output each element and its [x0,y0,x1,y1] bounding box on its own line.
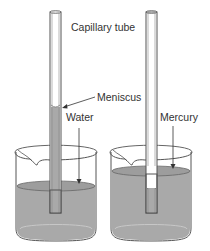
water-beaker-spout [18,150,32,161]
meniscus-arrowhead [62,104,68,109]
water-setup [15,11,97,241]
meniscus-pointer-line [64,97,95,107]
mercury-tube-top-opening [146,11,157,14]
mercury-beaker-spout [113,150,127,161]
mercury-label: Mercury [160,111,199,123]
water-column-in-tube [51,107,60,213]
water-label: Water [66,111,94,123]
mercury-column-in-tube [147,188,156,213]
mercury-tube-surface-gap [147,166,156,188]
water-tube-top-opening [50,11,61,14]
mercury-setup [110,11,192,241]
capillary-tube-label: Capillary tube [71,21,135,33]
meniscus-label: Meniscus [97,91,141,103]
capillary-action-diagram: Capillary tube Meniscus Water Mercury [0,0,210,251]
